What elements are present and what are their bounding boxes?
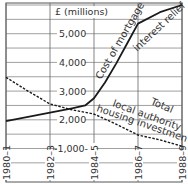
y-tick-label: 5,000 bbox=[59, 28, 86, 39]
y-tick-label: -1,000- bbox=[54, 143, 88, 154]
y-tick-label: 4,000 bbox=[59, 57, 86, 68]
x-tick-label: 1986–7 bbox=[133, 145, 144, 180]
x-tick-label: 1988–9 bbox=[177, 145, 188, 180]
y-tick-label: 2,000 bbox=[59, 114, 86, 125]
x-tick-label: 1984–5 bbox=[89, 145, 100, 180]
x-tick-label: 1980–1 bbox=[1, 145, 12, 180]
x-tick-label: 1982–3 bbox=[45, 145, 56, 180]
line-chart: £ (millions) 5,0004,0003,0002,000-1,000-… bbox=[0, 0, 187, 184]
unit-label: £ (millions) bbox=[55, 6, 108, 17]
y-tick-label: 3,000 bbox=[59, 86, 86, 97]
